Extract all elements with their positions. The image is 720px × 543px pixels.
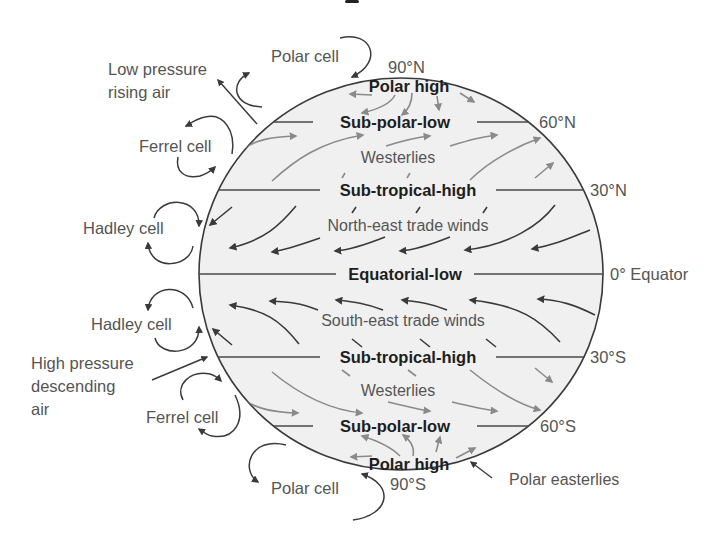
lat-equator: 0° Equator [610, 265, 689, 283]
cell-polar-south: Polar cell [271, 479, 339, 497]
wind-westerlies-south: Westerlies [361, 382, 435, 399]
zone-polar-high-north: Polar high [369, 77, 450, 95]
wind-westerlies-north: Westerlies [361, 149, 435, 166]
zone-polar-high-south: Polar high [369, 455, 450, 473]
cell-ferrel-north: Ferrel cell [139, 137, 211, 155]
annotation-high-pressure-1: High pressure [31, 354, 134, 372]
lat-90n: 90°N [388, 58, 425, 76]
zone-sub-polar-low-south: Sub-polar-low [340, 417, 450, 435]
clipped-title-fragment [345, 0, 359, 3]
annotation-high-pressure-3: air [31, 400, 50, 418]
annotation-low-pressure-2: rising air [108, 83, 171, 101]
zone-sub-tropical-high-south: Sub-tropical-high [340, 348, 477, 366]
zone-sub-tropical-high-north: Sub-tropical-high [340, 181, 477, 199]
cell-hadley-south: Hadley cell [91, 315, 172, 333]
cell-ferrel-south: Ferrel cell [146, 408, 218, 426]
atmospheric-circulation-diagram: Polar high Sub-polar-low Sub-tropical-hi… [0, 0, 720, 543]
cell-polar-north: Polar cell [271, 47, 339, 65]
lat-90s: 90°S [390, 475, 426, 493]
cell-hadley-north: Hadley cell [83, 219, 164, 237]
zone-sub-polar-low-north: Sub-polar-low [340, 113, 450, 131]
wind-ne-trades: North-east trade winds [328, 217, 489, 234]
annotation-high-pressure-2: descending [31, 377, 115, 395]
lat-30n: 30°N [590, 181, 627, 199]
lat-60n: 60°N [539, 113, 576, 131]
annotation-low-pressure-1: Low pressure [108, 60, 207, 78]
wind-se-trades: South-east trade winds [321, 312, 485, 329]
lat-30s: 30°S [590, 348, 626, 366]
lat-60s: 60°S [540, 417, 576, 435]
zone-equatorial-low: Equatorial-low [348, 265, 462, 283]
wind-polar-easterlies: Polar easterlies [509, 471, 619, 488]
